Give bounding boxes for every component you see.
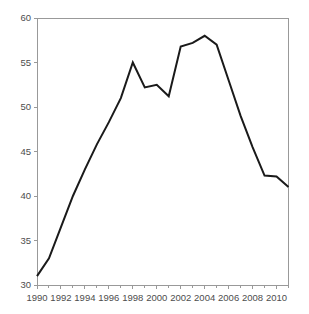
x-tick-label: 1996 — [98, 293, 119, 303]
y-tick-label: 50 — [0, 102, 31, 112]
x-tick-label: 1992 — [50, 293, 71, 303]
x-tick-label: 2004 — [194, 293, 215, 303]
x-tick-label: 1994 — [74, 293, 95, 303]
chart-plot-svg — [0, 0, 309, 314]
y-tick-label: 40 — [0, 191, 31, 201]
x-tick-label: 1990 — [26, 293, 47, 303]
x-tick-label: 2010 — [266, 293, 287, 303]
x-tick-label: 2006 — [218, 293, 239, 303]
line-chart-figure: 30354045505560 1990199219941996199820002… — [0, 0, 309, 314]
x-tick-label: 2002 — [170, 293, 191, 303]
x-tick-label: 2008 — [242, 293, 263, 303]
y-tick-label: 45 — [0, 147, 31, 157]
y-tick-label: 55 — [0, 58, 31, 68]
x-tick-label: 2000 — [146, 293, 167, 303]
plot-frame — [37, 18, 289, 285]
x-tick-label: 1998 — [122, 293, 143, 303]
y-tick-label: 30 — [0, 280, 31, 290]
y-tick-label: 60 — [0, 13, 31, 23]
y-tick-label: 35 — [0, 236, 31, 246]
